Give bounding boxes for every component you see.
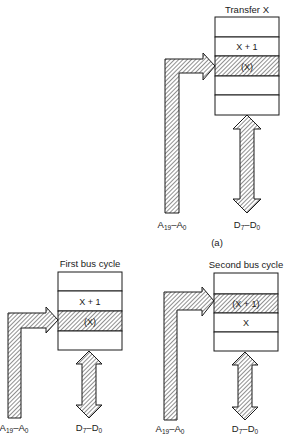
memory-cell-label: X [243, 318, 249, 328]
address-bus-label: A19–A0 [158, 219, 187, 231]
data-bus-label: D7–D0 [76, 422, 103, 434]
memory-block: X + 1 (X) [58, 272, 122, 350]
diagram-title: First bus cycle [60, 258, 121, 269]
memory-transfer-diagram: Transfer X X + 1 (X) A19–A0 D7–D0 (a) Fi… [0, 0, 287, 435]
memory-row [214, 332, 278, 351]
data-bus-arrow [233, 115, 261, 213]
memory-block: (X + 1) X [214, 273, 278, 351]
memory-cell-label: (X) [241, 62, 253, 72]
address-bus-label: A19–A0 [156, 423, 185, 435]
memory-cell-label: (X + 1) [232, 299, 259, 309]
address-bus-arrow [8, 307, 58, 418]
memory-cell-label: X + 1 [236, 42, 257, 52]
memory-block: X + 1 (X) [215, 17, 279, 115]
memory-row [215, 17, 279, 37]
address-bus-arrow [164, 287, 214, 420]
first-bus-cycle-diagram: First bus cycle X + 1 (X) A19–A0 D7–D0 [0, 258, 122, 434]
memory-row [58, 331, 122, 350]
transfer-x-diagram: Transfer X X + 1 (X) A19–A0 D7–D0 (a) [158, 4, 279, 248]
data-bus-label: D7–D0 [234, 219, 261, 231]
figure-caption: (a) [211, 237, 223, 248]
address-bus-label: A19–A0 [0, 422, 29, 434]
memory-row [215, 76, 279, 95]
data-bus-arrow [76, 351, 102, 418]
data-bus-label: D7–D0 [232, 423, 259, 435]
diagram-title: Transfer X [225, 4, 270, 15]
memory-row [215, 95, 279, 115]
memory-cell-label: X + 1 [79, 297, 100, 307]
address-bus-arrow [165, 53, 215, 213]
memory-row [58, 272, 122, 291]
memory-row [214, 273, 278, 294]
data-bus-arrow [232, 352, 258, 420]
diagram-title: Second bus cycle [209, 259, 283, 270]
second-bus-cycle-diagram: Second bus cycle (X + 1) X A19–A0 D7–D0 [156, 259, 284, 435]
memory-cell-label: (X) [84, 317, 96, 327]
